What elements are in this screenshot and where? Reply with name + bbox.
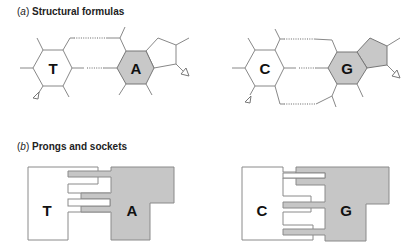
base-label-a: A xyxy=(127,202,138,219)
thymine-prong xyxy=(68,199,110,206)
bond xyxy=(176,38,189,45)
bond xyxy=(63,86,69,97)
bond xyxy=(275,39,284,50)
structural-pair-c-g: C G xyxy=(232,29,400,107)
prong-pair-c-g: C G xyxy=(242,167,389,241)
bond xyxy=(316,96,332,104)
prong-pair-t-a: T A xyxy=(28,167,174,240)
bond xyxy=(314,39,332,40)
bond xyxy=(248,38,255,50)
bond xyxy=(357,84,363,97)
bond xyxy=(250,86,255,95)
bond xyxy=(37,38,43,50)
bond xyxy=(119,84,126,95)
bond xyxy=(275,86,284,104)
cytosine-prong xyxy=(283,173,325,178)
base-label-t: T xyxy=(48,60,57,77)
base-label-g: G xyxy=(340,202,352,219)
sugar-attachment-arrow xyxy=(33,92,39,99)
base-label-c: C xyxy=(260,60,271,77)
base-label-a: A xyxy=(131,60,142,77)
base-label-t: T xyxy=(42,202,51,219)
bond xyxy=(387,38,400,46)
structural-pair-t-a: T A xyxy=(20,27,189,99)
bond xyxy=(387,65,395,73)
bond xyxy=(176,64,184,72)
sugar-attachment-arrow xyxy=(181,68,189,76)
bond xyxy=(120,27,126,51)
bond xyxy=(332,40,337,52)
sugar-attachment-arrow xyxy=(245,96,251,103)
bond xyxy=(275,29,280,39)
bond xyxy=(63,38,74,50)
base-label-c: C xyxy=(257,202,268,219)
base-pair-diagram: T A C G xyxy=(0,0,414,247)
base-label-g: G xyxy=(341,60,353,77)
bond xyxy=(332,84,337,107)
bond xyxy=(146,84,152,95)
